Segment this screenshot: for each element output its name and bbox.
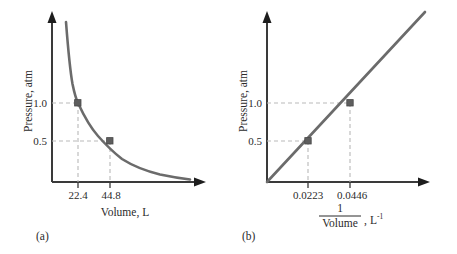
panel-a-data-point-1 [75,100,81,106]
panel-b-x-axis-title-unit: L [370,214,377,226]
panel-b-plot: 1.0 0.5 0.0223 0.0446 Pressure, atm 1 Vo… [228,0,457,254]
panel-a-xtick-label-1: 44.8 [101,189,121,201]
panel-a-boyle-curve [66,22,190,180]
panel-b-pressure-vs-inverse-volume: 1.0 0.5 0.0223 0.0446 Pressure, atm 1 Vo… [228,0,457,254]
panel-a-x-axis-arrow-icon [194,178,206,187]
panel-b-linear-fit [267,12,425,182]
panel-b-x-axis-title-numerator: 1 [337,202,343,214]
panel-b-x-axis-title-comma: , [364,214,367,227]
panel-b-xtick-label-1: 0.0446 [337,189,368,201]
panel-a-xtick-label-0: 22.4 [68,189,88,201]
panel-a-data-point-2 [107,138,113,144]
panel-b-y-axis-title: Pressure, atm [237,70,250,132]
panel-b-ytick-label-0: 1.0 [248,97,262,109]
panel-a-ytick-label-0: 1.0 [33,97,47,109]
panel-a-pressure-vs-volume: 1.0 0.5 22.4 44.8 Pressure, atm Volume, … [0,0,229,254]
panel-a-ytick-label-1: 0.5 [33,135,47,147]
panel-b-data-point-1 [305,138,311,144]
panel-b-x-axis-title-unit-exponent: -1 [377,212,383,221]
panel-b-x-axis-title: 1 Volume , L -1 [319,202,383,229]
panel-a-plot: 1.0 0.5 22.4 44.8 Pressure, atm Volume, … [0,0,229,254]
panel-a-x-axis-title: Volume, L [101,206,149,219]
panel-b-caption: (b) [242,230,256,243]
panel-b-y-axis-arrow-icon [263,11,272,23]
panel-b-ytick-label-1: 0.5 [248,135,262,147]
panel-b-x-axis-title-denominator: Volume [322,217,358,229]
panel-b-x-axis-arrow-icon [418,178,430,187]
panel-b-xtick-label-0: 0.0223 [293,189,324,201]
panel-a-caption: (a) [36,230,49,243]
panel-a-y-axis-arrow-icon [48,11,57,23]
panel-b-data-point-2 [347,100,353,106]
panel-a-y-axis-title: Pressure, atm [22,70,35,132]
two-panel-figure: 1.0 0.5 22.4 44.8 Pressure, atm Volume, … [0,0,457,254]
